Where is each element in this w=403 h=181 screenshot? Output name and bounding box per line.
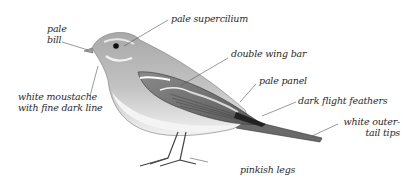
eye xyxy=(113,43,119,49)
label-pale-panel: pale panel xyxy=(259,75,307,86)
bird-diagram: pale bill pale supercilium double wing b… xyxy=(0,0,403,181)
label-pale-bill: pale bill xyxy=(47,23,67,45)
label-white-moustache: white moustache with fine dark line xyxy=(18,91,103,113)
label-dark-flight-feathers: dark flight feathers xyxy=(298,95,387,106)
bill xyxy=(84,48,93,53)
label-double-wing-bar: double wing bar xyxy=(231,48,306,59)
label-pale-supercilium: pale supercilium xyxy=(171,13,248,24)
label-pinkish-legs: pinkish legs xyxy=(240,164,295,175)
legs xyxy=(140,132,196,166)
label-white-outer-tail-tips: white outer- tail tips xyxy=(334,116,400,138)
